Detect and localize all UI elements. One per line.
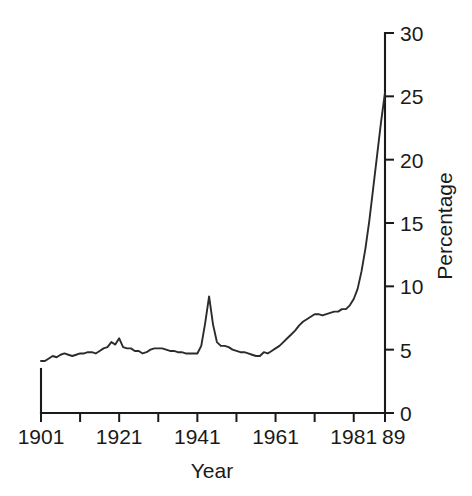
- y-tick-label: 0: [400, 402, 412, 425]
- x-tick-label: 1961: [252, 425, 299, 448]
- y-tick-label: 10: [400, 275, 423, 298]
- y-tick-label: 30: [400, 22, 423, 45]
- x-axis-title: Year: [191, 459, 233, 482]
- y-tick-label: 15: [400, 212, 423, 235]
- y-axis-ticks: [385, 33, 394, 413]
- y-tick-label: 20: [400, 149, 423, 172]
- data-series-line: [41, 93, 385, 362]
- y-tick-label: 5: [400, 339, 412, 362]
- x-tick-label: 89: [382, 425, 405, 448]
- axis-frame: [41, 33, 385, 413]
- y-axis-title: Percentage: [433, 172, 456, 279]
- x-tick-label: 1901: [18, 425, 65, 448]
- x-tick-label: 1921: [96, 425, 143, 448]
- x-tick-label: 1941: [174, 425, 221, 448]
- chart-container: 1901192119411961198189 051015202530 Year…: [0, 0, 472, 496]
- x-axis-tick-labels: 1901192119411961198189: [18, 425, 406, 448]
- line-chart: 1901192119411961198189 051015202530 Year…: [0, 0, 472, 496]
- y-axis-tick-labels: 051015202530: [400, 22, 423, 425]
- y-tick-label: 25: [400, 85, 423, 108]
- x-tick-label: 1981: [330, 425, 377, 448]
- x-axis-ticks: [41, 413, 385, 422]
